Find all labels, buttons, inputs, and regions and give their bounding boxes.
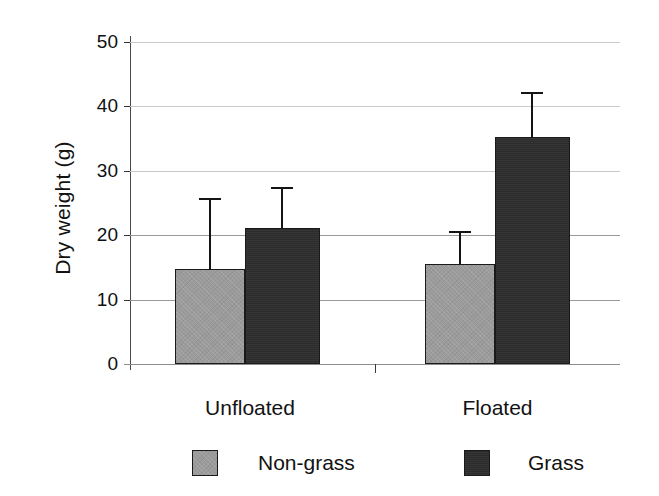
legend-label-grass: Grass: [528, 451, 584, 475]
bar-floated-grass[interactable]: [495, 137, 570, 364]
y-tick-label-10: 10: [72, 290, 118, 309]
bar-floated-non-grass[interactable]: [425, 264, 495, 364]
y-tick-label-50: 50: [72, 32, 118, 51]
legend-item-non-grass[interactable]: Non-grass: [192, 448, 355, 478]
errorbar-stem-floated-non-grass: [459, 231, 461, 265]
gridline-40: [130, 106, 620, 107]
y-tick-label-0: 0: [72, 354, 118, 373]
plot-area: [130, 42, 620, 364]
errorbar-stem-floated-grass: [531, 92, 533, 138]
errorbar-cap-floated-non-grass: [449, 231, 471, 233]
errorbar-cap-unfloated-grass: [271, 187, 293, 189]
category-label-floated: Floated: [425, 396, 570, 420]
legend-item-grass[interactable]: Grass: [464, 448, 584, 478]
y-tick-label-40: 40: [72, 96, 118, 115]
bar-unfloated-grass[interactable]: [245, 228, 320, 364]
errorbar-stem-unfloated-grass: [281, 187, 283, 229]
errorbar-stem-unfloated-non-grass: [209, 198, 211, 270]
errorbar-cap-unfloated-non-grass: [199, 198, 221, 200]
legend-label-non-grass: Non-grass: [258, 451, 355, 475]
bar-chart-figure: Dry weight (g) 50 40 30 20 10 0: [0, 0, 659, 496]
bar-unfloated-non-grass[interactable]: [175, 269, 245, 364]
legend-swatch-non-grass-icon: [192, 450, 218, 476]
errorbar-cap-floated-grass: [521, 92, 543, 94]
legend-swatch-grass-icon: [464, 450, 490, 476]
legend: Non-grass Grass: [0, 448, 659, 482]
x-axis-line: [124, 364, 620, 365]
category-label-unfloated: Unfloated: [175, 396, 325, 420]
y-tick-label-30: 30: [72, 161, 118, 180]
gridline-50: [130, 42, 620, 43]
y-tick-label-20: 20: [72, 225, 118, 244]
x-axis-group-separator-tick: [375, 364, 376, 373]
